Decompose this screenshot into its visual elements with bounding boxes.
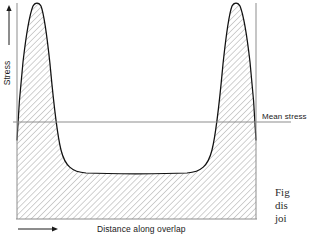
caption-line-3: joi	[275, 212, 287, 224]
mean-stress-label: Mean stress	[262, 112, 307, 121]
figure-container: Stress Distance along overlap Mean stres…	[0, 0, 320, 239]
y-axis-arrow-icon	[6, 5, 11, 45]
x-axis-arrow-icon	[18, 226, 58, 231]
x-axis-label: Distance along overlap	[97, 224, 186, 234]
caption-line-2: dis	[275, 199, 288, 211]
y-axis-label: Stress	[2, 53, 12, 93]
stress-distribution-area	[17, 3, 256, 219]
caption-line-1: Fig	[275, 186, 290, 198]
